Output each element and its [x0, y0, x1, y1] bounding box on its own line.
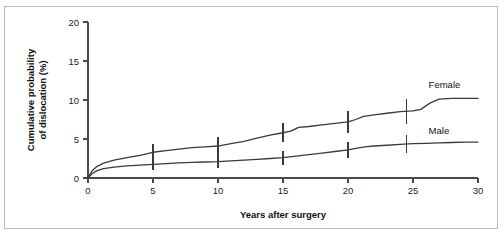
y-tick-label: 15	[68, 56, 79, 67]
y-tick-label: 10	[68, 95, 79, 106]
x-tick-label: 15	[278, 185, 289, 196]
x-tick-label: 0	[85, 185, 90, 196]
line-chart: 05101520051015202530Years after surgeryC…	[0, 0, 504, 235]
y-axis-title-line1: Cumulative probability	[25, 48, 36, 151]
x-tick-label: 30	[473, 185, 484, 196]
x-tick-label: 20	[343, 185, 354, 196]
y-tick-label: 20	[68, 17, 79, 28]
x-tick-label: 25	[408, 185, 419, 196]
y-axis-title-line2: of dislocation (%)	[37, 60, 48, 139]
figure-container: 05101520051015202530Years after surgeryC…	[0, 0, 504, 235]
series-label-male: Male	[429, 125, 450, 136]
series-label-female: Female	[429, 79, 461, 90]
y-tick-label: 0	[74, 173, 79, 184]
y-tick-label: 5	[74, 134, 79, 145]
x-axis-title: Years after surgery	[240, 209, 327, 220]
x-tick-label: 10	[213, 185, 224, 196]
x-tick-label: 5	[150, 185, 155, 196]
